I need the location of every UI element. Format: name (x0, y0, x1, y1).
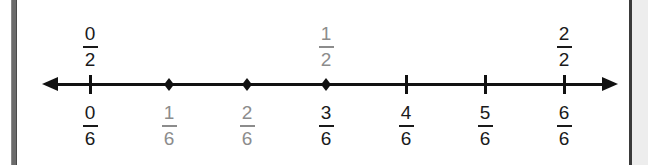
fraction-bar (478, 125, 493, 127)
fraction-bar (240, 125, 255, 127)
denominator: 6 (164, 130, 175, 148)
tick-0-sixths (89, 75, 92, 94)
fraction-bar (162, 125, 177, 127)
fraction-bar (557, 46, 572, 48)
fraction-bar (399, 125, 414, 127)
denominator: 2 (85, 51, 96, 69)
fraction-bar (83, 125, 98, 127)
denominator: 2 (321, 51, 332, 69)
label-0-sixths: 0 6 (75, 104, 105, 148)
label-4-sixths: 4 6 (391, 104, 421, 148)
numerator: 5 (480, 104, 491, 122)
tick-6-sixths (563, 75, 566, 94)
denominator: 6 (321, 130, 332, 148)
arrow-right-icon (602, 77, 618, 91)
numerator: 2 (242, 104, 253, 122)
left-frame-border (11, 0, 17, 165)
fraction-bar (557, 125, 572, 127)
fraction-bar (83, 46, 98, 48)
label-0-halves: 0 2 (75, 25, 105, 69)
right-margin-panel (632, 0, 648, 165)
numerator: 3 (321, 104, 332, 122)
numerator: 1 (164, 104, 175, 122)
numerator: 1 (321, 25, 332, 43)
label-2-sixths: 2 6 (232, 104, 262, 148)
denominator: 2 (559, 51, 570, 69)
fraction-bar (319, 46, 334, 48)
denominator: 6 (242, 130, 253, 148)
denominator: 6 (480, 130, 491, 148)
label-2-halves: 2 2 (549, 25, 579, 69)
numerator: 2 (559, 25, 570, 43)
tick-5-sixths (484, 75, 487, 94)
label-5-sixths: 5 6 (470, 104, 500, 148)
arrow-left-icon (42, 77, 58, 91)
point-2-sixths (242, 78, 252, 91)
point-1-sixth (164, 78, 174, 91)
point-3-sixths (321, 78, 331, 91)
label-6-sixths: 6 6 (549, 104, 579, 148)
denominator: 6 (559, 130, 570, 148)
numerator: 0 (85, 25, 96, 43)
numerator: 4 (401, 104, 412, 122)
numerator: 0 (85, 104, 96, 122)
denominator: 6 (401, 130, 412, 148)
label-3-sixths: 3 6 (311, 104, 341, 148)
fraction-bar (319, 125, 334, 127)
label-1-sixth: 1 6 (154, 104, 184, 148)
denominator: 6 (85, 130, 96, 148)
tick-4-sixths (405, 75, 408, 94)
numerator: 6 (559, 104, 570, 122)
label-1-half: 1 2 (311, 25, 341, 69)
